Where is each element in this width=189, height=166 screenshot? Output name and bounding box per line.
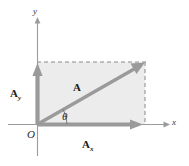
vector-ay-label-subscript: y <box>18 94 21 102</box>
x-axis-label: x <box>172 118 176 127</box>
vector-ax-label-base: A <box>82 138 90 150</box>
y-axis-label: y <box>33 7 37 16</box>
vector-ay-label-base: A <box>10 87 18 99</box>
vector-a-label: A <box>73 82 81 93</box>
vector-ax-label: Ax <box>82 139 93 150</box>
angle-theta-label: θ <box>62 111 67 122</box>
vector-components-figure: y x O A Ax Ay θ <box>0 0 189 166</box>
origin-label: O <box>27 129 35 140</box>
vector-ax-label-subscript: x <box>90 145 94 153</box>
vector-ay-label: Ay <box>10 88 21 99</box>
vector-diagram-canvas <box>0 0 189 166</box>
